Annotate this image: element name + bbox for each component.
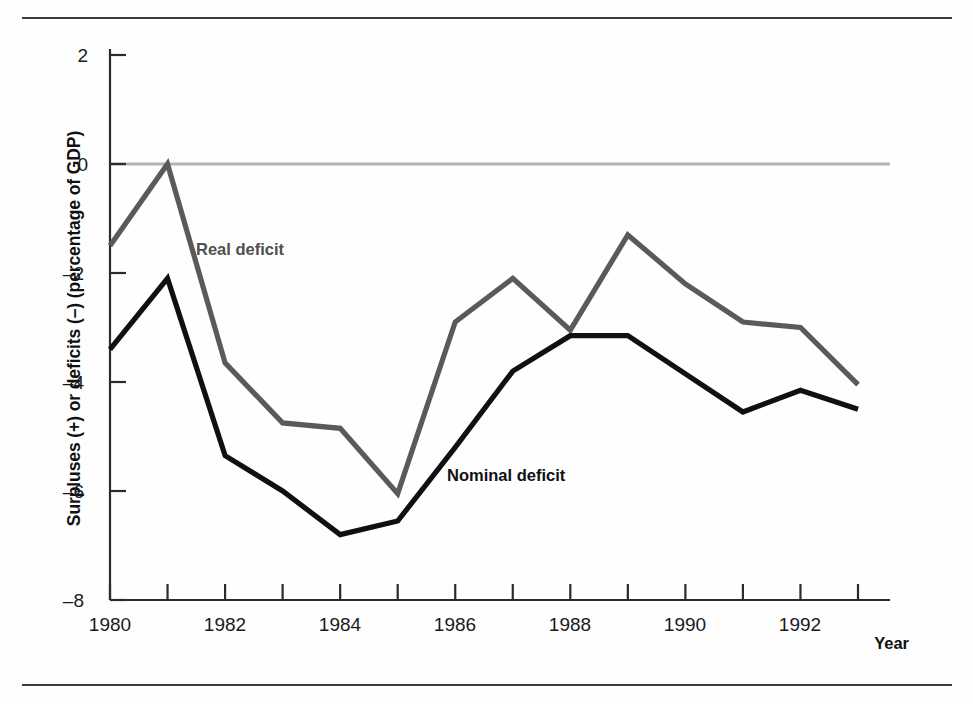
x-axis-ticks (110, 584, 858, 600)
plot-area (0, 0, 973, 704)
chart-figure: Surpluses (+) or deficits (–) (percentag… (0, 0, 973, 704)
line-series-nominal-deficit (110, 278, 858, 534)
y-axis-ticks (110, 55, 126, 600)
